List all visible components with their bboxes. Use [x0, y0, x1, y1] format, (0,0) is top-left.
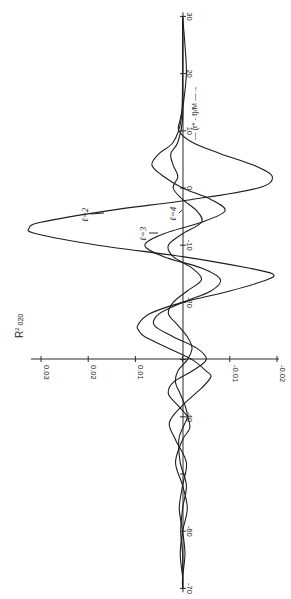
value-tick-label: -0.02 [278, 365, 287, 382]
annotation-l3: ℓ=3 [138, 226, 148, 241]
x-axis-label: — (r* - t)/M —→ [190, 86, 199, 140]
time-tick-label: -70 [185, 583, 194, 594]
time-tick-label: -20 [185, 297, 194, 308]
value-tick-label: 0.01 [136, 365, 145, 380]
value-tick-label: 0.02 [89, 365, 98, 380]
curves [28, 16, 274, 588]
time-tick-label: 30 [185, 12, 194, 20]
time-tick-label: 0 [185, 186, 194, 190]
rotated-line-chart: 3020100-10-20-40-60-700.030.020.01-0.01-… [0, 0, 291, 599]
value-tick-label: -0.01 [231, 365, 240, 382]
y-axis-label: R2 020 [14, 314, 25, 338]
labels: 3020100-10-20-40-60-700.030.020.01-0.01-… [14, 12, 287, 594]
annotation-l2: ℓ=2 [80, 207, 90, 222]
curve-l2 [28, 16, 274, 588]
time-tick-label: -10 [185, 240, 194, 251]
time-tick-label: -40 [185, 411, 194, 422]
axes [31, 12, 279, 592]
time-tick-label: -60 [185, 526, 194, 537]
time-tick-label: 20 [185, 69, 194, 77]
annotation-leader-arrow [179, 210, 182, 213]
value-tick-label: 0.03 [42, 365, 51, 380]
annotation-l4: ℓ=4 [168, 206, 178, 221]
